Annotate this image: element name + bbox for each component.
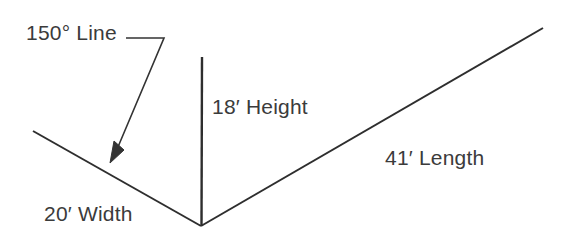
diagram-canvas: 150° Line 18′ Height 41′ Length 20′ Widt…: [0, 0, 567, 247]
height-line: [202, 57, 203, 226]
length-label: 41′ Length: [385, 146, 484, 169]
angle-leader-line: [115, 38, 164, 154]
arrow-head-icon: [110, 141, 124, 163]
roof-slope-diagram: 150° Line 18′ Height 41′ Length 20′ Widt…: [0, 0, 567, 247]
angle-label: 150° Line: [26, 21, 117, 44]
height-label: 18′ Height: [212, 95, 308, 118]
length-line: [201, 28, 543, 226]
width-label: 20′ Width: [44, 202, 133, 225]
